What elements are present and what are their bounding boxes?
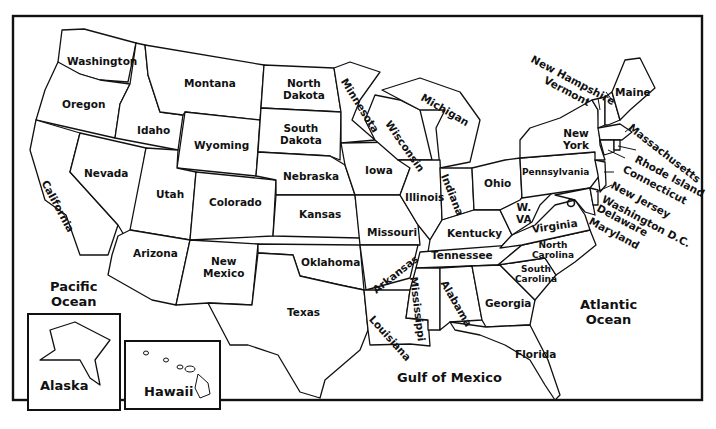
label-washington: Washington xyxy=(67,55,137,67)
state-rhode-island[interactable] xyxy=(614,140,620,150)
label-iowa: Iowa xyxy=(365,164,393,176)
label-pennsylvania: Pennsylvania xyxy=(522,167,589,177)
label-missouri: Missouri xyxy=(367,226,417,238)
label-south-carolina: SouthCarolina xyxy=(515,264,557,284)
label-kentucky: Kentucky xyxy=(447,227,502,239)
label-texas: Texas xyxy=(287,306,320,318)
label-georgia: Georgia xyxy=(485,297,531,309)
label-colorado: Colorado xyxy=(209,196,262,208)
label-north-carolina: NorthCarolina xyxy=(532,240,574,260)
label-nevada: Nevada xyxy=(84,167,128,179)
label-hawaii: Hawaii xyxy=(144,384,193,399)
label-arizona: Arizona xyxy=(133,247,178,259)
label-new-mexico: NewMexico xyxy=(203,255,244,279)
label-wyoming: Wyoming xyxy=(194,139,249,151)
label-utah: Utah xyxy=(156,188,184,200)
label-maine: Maine xyxy=(615,86,651,98)
label-new-york: NewYork xyxy=(563,127,589,151)
label-gulf-of-mexico: Gulf of Mexico xyxy=(397,370,502,385)
label-ohio: Ohio xyxy=(484,177,511,189)
label-south-dakota: SouthDakota xyxy=(280,122,322,146)
label-north-dakota: NorthDakota xyxy=(283,77,325,101)
label-pacific-ocean: PacificOcean xyxy=(50,279,97,309)
label-idaho: Idaho xyxy=(137,124,170,136)
label-illinois: Illinois xyxy=(405,191,444,203)
state-florida[interactable] xyxy=(450,322,560,400)
label-florida: Florida xyxy=(515,348,556,360)
label-kansas: Kansas xyxy=(299,208,341,220)
label-tennessee: Tennessee xyxy=(431,249,493,261)
label-atlantic-ocean: AtlanticOcean xyxy=(580,297,637,327)
label-alaska: Alaska xyxy=(40,378,88,393)
label-nebraska: Nebraska xyxy=(283,170,339,182)
state-arizona[interactable] xyxy=(108,230,190,305)
label-montana: Montana xyxy=(184,77,236,89)
label-west-virginia: W.VA xyxy=(516,201,532,225)
label-oregon: Oregon xyxy=(62,98,105,110)
label-oklahoma: Oklahoma xyxy=(301,256,360,268)
